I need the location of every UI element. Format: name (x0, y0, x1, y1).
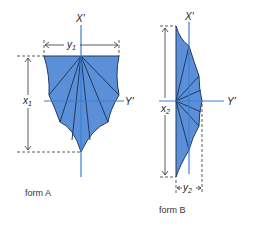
form-a-height-label: x1 (22, 95, 32, 107)
form-a-caption: form A (25, 188, 51, 198)
form-a-width-label: y1 (66, 39, 76, 51)
form-b-axis-y-label: Y' (227, 96, 237, 107)
form-a-axis-x-label: X' (75, 13, 86, 24)
form-b-width-label: y2 (182, 182, 192, 194)
diagram-canvas: X' Y' y1 x1 form A (0, 0, 253, 227)
form-b-axis-x-label: X' (184, 11, 195, 22)
form-b: X' Y' x2 y2 form B (159, 11, 237, 215)
form-a-axis-y-label: Y' (125, 96, 135, 107)
form-a: X' Y' y1 x1 form A (17, 13, 135, 198)
form-b-caption: form B (159, 205, 186, 215)
form-b-height-label: x2 (160, 103, 170, 115)
